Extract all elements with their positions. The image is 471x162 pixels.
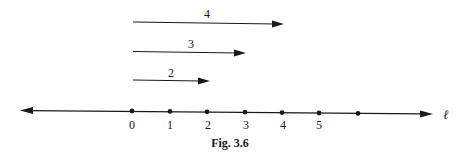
tick-label-3: 3 [243,118,249,132]
arrow-label-3: 3 [188,37,194,51]
tick-point-3 [243,110,248,115]
tick-point-5 [317,111,322,116]
tick-label-0: 0 [129,118,135,132]
arrow-label-4: 4 [204,7,210,21]
tick-point-6 [356,111,361,116]
tick-point-1 [168,109,173,114]
number-line-diagram: 4 3 2 0 1 2 3 4 5 ℓ Fig. 3.6 [0,0,471,162]
line-label: ℓ [443,107,449,122]
tick-label-1: 1 [167,118,173,132]
tick-point-0 [130,109,135,114]
tick-label-2: 2 [205,118,211,132]
right-arrowhead-icon [420,111,433,118]
vector-arrow-4: 4 [133,7,284,28]
vector-arrow-2: 2 [133,66,210,85]
left-arrowhead-icon [20,107,33,114]
arrow-label-2: 2 [168,66,174,80]
figure-caption: Fig. 3.6 [211,136,249,150]
number-line: 0 1 2 3 4 5 ℓ [20,107,449,132]
tick-label-5: 5 [316,118,322,132]
tick-point-2 [205,109,210,114]
vector-arrow-3: 3 [133,37,246,57]
tick-point-4 [280,110,285,115]
tick-label-4: 4 [280,118,286,132]
